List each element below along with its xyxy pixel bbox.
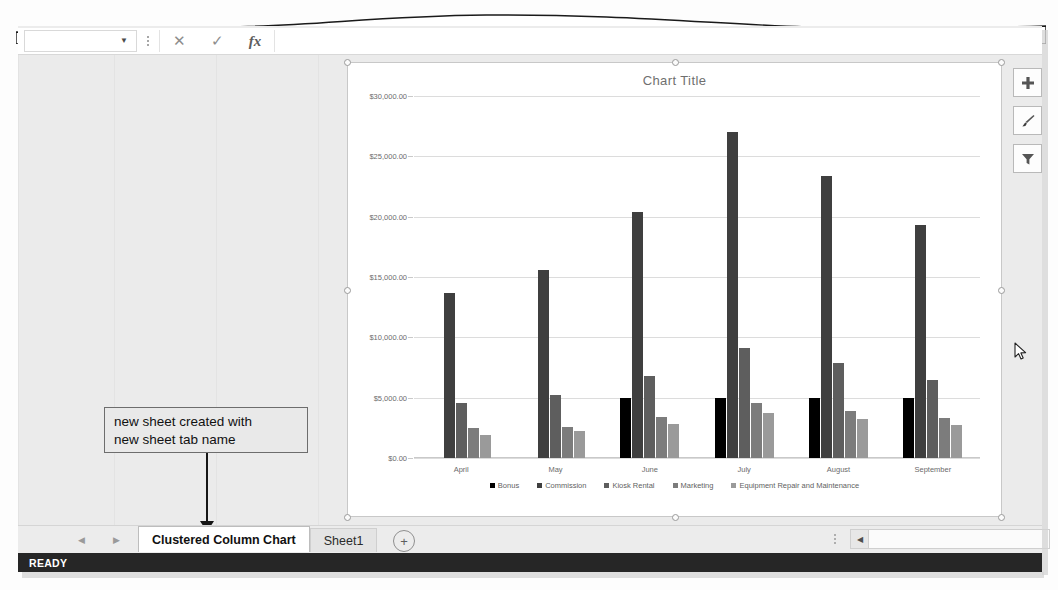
- bar[interactable]: [715, 398, 726, 458]
- bar[interactable]: [751, 403, 762, 459]
- bar-group: May: [508, 96, 602, 458]
- legend-item[interactable]: Bonus: [490, 481, 519, 490]
- resize-handle-br[interactable]: [998, 514, 1005, 521]
- chart-object[interactable]: Chart Title $0.00$5,000.00$10,000.00$15,…: [347, 62, 1002, 517]
- y-axis-tick-mark: [408, 398, 413, 399]
- window-shadow-right: [1042, 30, 1048, 575]
- annotation-arrow-line: [206, 453, 208, 525]
- sheet-prev-arrow[interactable]: ◀: [68, 535, 95, 545]
- window-shadow-bottom: [22, 572, 1044, 578]
- chart-styles-button[interactable]: [1013, 106, 1042, 135]
- bar[interactable]: [763, 413, 774, 458]
- x-axis-tick-label: May: [508, 465, 602, 474]
- bar[interactable]: [845, 411, 856, 458]
- y-axis-tick-label: $30,000.00: [369, 92, 407, 101]
- y-axis-tick-mark: [408, 156, 413, 157]
- insert-function-icon[interactable]: fx: [236, 30, 274, 52]
- legend-label: Marketing: [681, 481, 714, 490]
- y-axis-tick-mark: [408, 337, 413, 338]
- bar[interactable]: [632, 212, 643, 458]
- y-axis-tick-label: $0.00: [388, 454, 407, 463]
- resize-handle-ml[interactable]: [344, 287, 351, 294]
- status-bar: READY: [18, 553, 1042, 572]
- legend-item[interactable]: Equipment Repair and Maintenance: [731, 481, 859, 490]
- bar-group: June: [603, 96, 697, 458]
- bar[interactable]: [833, 363, 844, 458]
- sheet-tab-2[interactable]: Sheet1: [310, 528, 378, 552]
- formula-input[interactable]: [275, 30, 1038, 52]
- bar-group: July: [697, 96, 791, 458]
- plus-icon: [1021, 76, 1035, 90]
- status-text: READY: [29, 557, 67, 569]
- legend-label: Equipment Repair and Maintenance: [739, 481, 859, 490]
- resize-handle-tr[interactable]: [998, 59, 1005, 66]
- resize-handle-tc[interactable]: [672, 59, 679, 66]
- bar[interactable]: [809, 398, 820, 458]
- x-axis-tick-label: June: [603, 465, 697, 474]
- y-axis-tick-label: $10,000.00: [369, 333, 407, 342]
- bar[interactable]: [468, 428, 479, 458]
- bar[interactable]: [821, 176, 832, 458]
- bar[interactable]: [939, 418, 950, 458]
- name-box[interactable]: ▼: [24, 30, 137, 52]
- legend-item[interactable]: Kiosk Rental: [604, 481, 654, 490]
- bar[interactable]: [550, 395, 561, 458]
- legend-swatch: [673, 483, 678, 488]
- y-axis-tick-label: $20,000.00: [369, 212, 407, 221]
- bar[interactable]: [538, 270, 549, 458]
- bar[interactable]: [480, 435, 491, 458]
- horizontal-scrollbar[interactable]: ◀: [850, 529, 1050, 549]
- x-axis-tick-label: April: [414, 465, 508, 474]
- legend-label: Kiosk Rental: [612, 481, 654, 490]
- resize-handle-bc[interactable]: [672, 514, 679, 521]
- chart-legend[interactable]: BonusCommissionKiosk RentalMarketingEqui…: [348, 481, 1001, 490]
- scroll-left-icon[interactable]: ◀: [851, 530, 869, 548]
- gridline: [414, 458, 980, 459]
- resize-handle-tl[interactable]: [344, 59, 351, 66]
- legend-swatch: [490, 483, 495, 488]
- sheet-next-arrow[interactable]: ▶: [103, 535, 130, 545]
- sheet-tab-1[interactable]: Clustered Column Chart: [138, 526, 310, 552]
- bar[interactable]: [668, 424, 679, 458]
- bar[interactable]: [456, 403, 467, 459]
- formula-bar-buttons: ✕ ✓ fx: [159, 30, 275, 52]
- x-axis-tick-label: August: [791, 465, 885, 474]
- legend-item[interactable]: Commission: [537, 481, 586, 490]
- screenshot-root: ▼ ✕ ✓ fx Chart Title $0.00$5,000.00$10,0…: [0, 0, 1058, 590]
- bar[interactable]: [927, 380, 938, 458]
- chart-side-buttons: [1013, 68, 1043, 182]
- cancel-icon[interactable]: ✕: [160, 30, 198, 52]
- chart-title[interactable]: Chart Title: [348, 73, 1001, 88]
- bar[interactable]: [739, 348, 750, 458]
- bar[interactable]: [903, 398, 914, 458]
- sheet-tabs: Clustered Column ChartSheet1: [138, 526, 377, 554]
- funnel-icon: [1021, 152, 1035, 166]
- bar[interactable]: [620, 398, 631, 458]
- new-sheet-button[interactable]: +: [393, 530, 415, 552]
- enter-icon[interactable]: ✓: [198, 30, 236, 52]
- bar[interactable]: [574, 431, 585, 458]
- chevron-down-icon: ▼: [120, 37, 128, 45]
- y-axis-tick-label: $25,000.00: [369, 152, 407, 161]
- scrollbar-grip: [834, 534, 836, 544]
- resize-handle-bl[interactable]: [344, 514, 351, 521]
- bar[interactable]: [951, 425, 962, 458]
- legend-swatch: [731, 483, 736, 488]
- bar[interactable]: [915, 225, 926, 458]
- y-axis-tick-mark: [408, 217, 413, 218]
- chart-filters-button[interactable]: [1013, 144, 1042, 173]
- bar[interactable]: [656, 417, 667, 458]
- bar[interactable]: [562, 427, 573, 458]
- y-axis-tick-mark: [408, 277, 413, 278]
- chart-elements-button[interactable]: [1013, 68, 1042, 97]
- bar[interactable]: [644, 376, 655, 458]
- resize-handle-mr[interactable]: [998, 287, 1005, 294]
- bar[interactable]: [727, 132, 738, 458]
- brush-icon: [1020, 113, 1036, 129]
- annotation-callout: new sheet created with new sheet tab nam…: [104, 407, 308, 453]
- scrollbar-track[interactable]: [869, 530, 1049, 548]
- bar[interactable]: [444, 293, 455, 458]
- y-axis-tick-mark: [408, 96, 413, 97]
- bar[interactable]: [857, 419, 868, 458]
- legend-item[interactable]: Marketing: [673, 481, 714, 490]
